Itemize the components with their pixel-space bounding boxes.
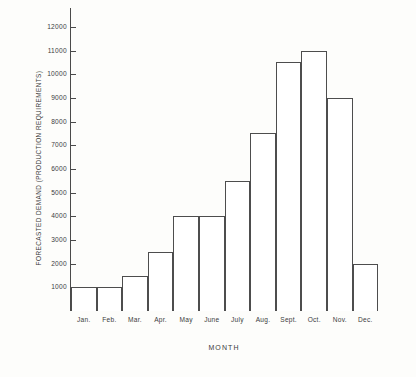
bar [327,98,353,311]
y-axis-tick-label: 12000 [27,23,67,30]
y-axis-tick-label: 11000 [27,47,67,54]
y-axis-tick-label: 4000 [27,212,67,219]
bar [276,62,302,311]
bar [353,264,379,311]
y-axis-tick-label: 6000 [27,165,67,172]
bar [250,133,276,311]
x-axis-tick-label: Dec. [347,316,385,323]
bar [301,51,327,311]
y-axis-tick-label: 8000 [27,118,67,125]
bar-chart: FORECASTED DEMAND (PRODUCTION REQUIREMEN… [0,0,416,377]
bar [173,216,199,311]
bar [199,216,225,311]
bar [225,181,251,311]
y-axis-tick-label: 7000 [27,141,67,148]
bar [71,287,97,311]
bar [122,276,148,312]
bar [97,287,123,311]
bar [148,252,174,311]
x-axis-title: MONTH [71,344,377,351]
y-axis-tick-label: 1000 [27,283,67,290]
y-axis-tick-label: 5000 [27,189,67,196]
y-axis-tick-label: 2000 [27,260,67,267]
plot-area [71,8,377,311]
y-axis-tick-label: 9000 [27,94,67,101]
y-axis-tick-label: 3000 [27,236,67,243]
y-axis-tick-label: 10000 [27,70,67,77]
